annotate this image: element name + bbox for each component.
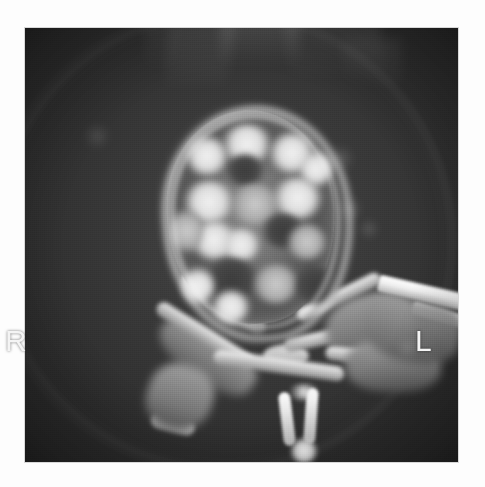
soft-tissue-nodule <box>83 124 111 148</box>
spinous-process-tip <box>291 438 317 462</box>
bone-bright-focus <box>397 340 417 358</box>
beam-streak-artifact <box>343 38 401 84</box>
soft-tissue-nodule <box>359 220 379 238</box>
orientation-marker-right: R <box>5 326 27 356</box>
spinous-process-base <box>287 384 321 400</box>
orientation-marker-left: L <box>415 326 432 356</box>
ct-screenshot-page: R L <box>0 0 485 487</box>
ct-image-frame[interactable] <box>25 28 458 462</box>
